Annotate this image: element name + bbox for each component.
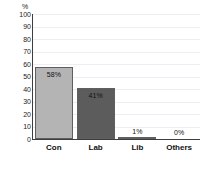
bar-slot: 0% — [160, 14, 198, 139]
y-axis-tick-label: 0 — [3, 136, 31, 143]
bar-slot: 58% — [35, 14, 73, 139]
x-axis-category-labels: ConLabLibOthers — [33, 143, 200, 159]
y-axis-tick-label: 50 — [3, 73, 31, 80]
bar-value-label: 41% — [77, 92, 115, 100]
x-axis-category-label: Lab — [75, 143, 117, 153]
bar[interactable] — [118, 137, 156, 139]
x-axis-category-label: Lib — [117, 143, 159, 153]
y-axis-tick-label: 10 — [3, 123, 31, 130]
x-axis-line — [32, 139, 200, 140]
y-axis-tick-labels: 1009080706050403020100 — [0, 0, 31, 170]
bar-value-label: 1% — [118, 128, 156, 136]
x-axis-category-label: Con — [33, 143, 75, 153]
y-axis-tick-label: 90 — [3, 23, 31, 30]
bar-value-label: 0% — [160, 129, 198, 137]
bar-chart: % 1009080706050403020100 58%41%1%0% ConL… — [0, 0, 204, 170]
y-axis-tick-label: 100 — [3, 11, 31, 18]
bars-group: 58%41%1%0% — [33, 14, 200, 139]
bar-slot: 1% — [118, 14, 156, 139]
y-axis-tick-label: 40 — [3, 86, 31, 93]
y-axis-tick-label: 30 — [3, 98, 31, 105]
y-axis-tick-label: 70 — [3, 48, 31, 55]
bar-value-label: 58% — [35, 71, 73, 79]
y-axis-tick-label: 60 — [3, 61, 31, 68]
y-axis-tick-label: 80 — [3, 36, 31, 43]
bar-slot: 41% — [77, 14, 115, 139]
x-axis-category-label: Others — [158, 143, 200, 153]
y-axis-tick-label: 20 — [3, 111, 31, 118]
